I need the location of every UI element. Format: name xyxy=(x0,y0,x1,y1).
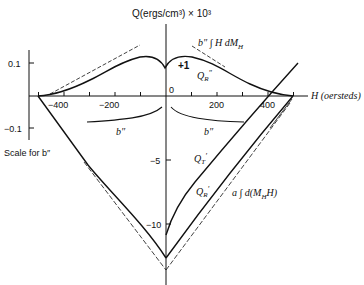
qr-double-prime-label: QR″ xyxy=(197,69,213,83)
h-axis-tick-label: 200 xyxy=(209,100,224,110)
b-integral-tangent-left xyxy=(50,45,140,94)
b-double-prime-right-label: b″ xyxy=(204,126,214,137)
b-scale-caption: Scale for b″ xyxy=(4,148,51,158)
b-scale-label-pos: 0.1 xyxy=(8,59,21,69)
magnetization-energy-diagram: 0.1 −0.1 Scale for b″ −400−200200400 −5 … xyxy=(0,0,364,285)
h-axis-tick-label: −200 xyxy=(99,100,119,110)
h-axis-tick-label: 400 xyxy=(260,100,275,110)
b-double-prime-left-label: b″ xyxy=(116,126,126,137)
qt-prime-curve xyxy=(166,63,298,235)
h-axis-tick-label: −400 xyxy=(48,100,68,110)
b-integral-label: b″ ∫ H dMH xyxy=(198,37,244,51)
q-tick-label-minus5: −5 xyxy=(150,156,160,166)
origin-label: 0 xyxy=(169,85,174,95)
a-integral-left-line xyxy=(84,162,166,270)
q-tick-label-minus10: −10 xyxy=(146,220,161,230)
b-scale-label-neg: −0.1 xyxy=(4,124,22,134)
qt-prime-label: QT′ xyxy=(194,152,207,166)
a-integral-label: a ∫ d(MHH) xyxy=(232,187,278,201)
x-axis-title: H (oersteds) xyxy=(310,90,361,102)
qr-prime-label: QR′ xyxy=(196,185,210,199)
b-integral-tangent-right xyxy=(192,46,225,67)
qr-prime-left-curve xyxy=(38,96,166,258)
qr-prime-right-curve xyxy=(166,96,293,258)
y-axis-title: Q(ergs/cm³) × 10³ xyxy=(132,8,212,19)
plus-one-label: +1 xyxy=(178,60,190,71)
b-double-prime-right-curve xyxy=(171,107,244,122)
